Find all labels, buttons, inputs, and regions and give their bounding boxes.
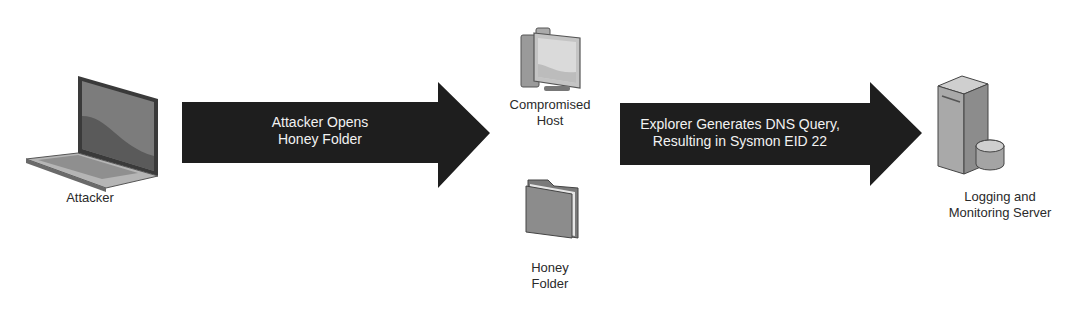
folder-icon <box>520 176 584 240</box>
compromised-host-label: Compromised Host <box>500 97 600 129</box>
arrow-1-label: Attacker Opens Honey Folder <box>240 114 400 148</box>
arrow-1-line1: Attacker Opens <box>240 114 400 131</box>
desktop-computer-icon <box>518 28 584 94</box>
attacker-label: Attacker <box>40 190 140 206</box>
honey-folder-label: Honey Folder <box>500 260 600 292</box>
compromised-host-line2: Host <box>500 113 600 129</box>
logging-server-line1: Logging and <box>930 189 1070 205</box>
arrow-1-line2: Honey Folder <box>240 131 400 148</box>
laptop-icon <box>18 76 168 186</box>
logging-server-label: Logging and Monitoring Server <box>930 189 1070 221</box>
honey-folder-line2: Folder <box>500 276 600 292</box>
honey-folder-line1: Honey <box>500 260 600 276</box>
server-database-icon <box>934 76 1014 172</box>
compromised-host-line1: Compromised <box>500 97 600 113</box>
arrow-2-label: Explorer Generates DNS Query, Resulting … <box>622 116 858 150</box>
arrow-2-line2: Resulting in Sysmon EID 22 <box>622 133 858 150</box>
logging-server-line2: Monitoring Server <box>930 205 1070 221</box>
arrow-2-line1: Explorer Generates DNS Query, <box>622 116 858 133</box>
